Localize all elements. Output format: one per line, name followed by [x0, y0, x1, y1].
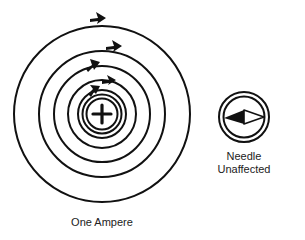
needle-south-half [244, 110, 264, 124]
diagram-canvas [0, 0, 305, 240]
plus-icon [93, 105, 111, 123]
current-label: One Ampere [52, 216, 152, 229]
compass [219, 92, 269, 142]
needle-north-half [224, 110, 244, 124]
arrow-icon [90, 12, 106, 24]
compass-label-line2: Unaffected [214, 163, 274, 176]
compass-label: Needle Unaffected [214, 150, 274, 176]
arrow-icon [106, 40, 122, 52]
compass-label-line1: Needle [214, 150, 274, 163]
